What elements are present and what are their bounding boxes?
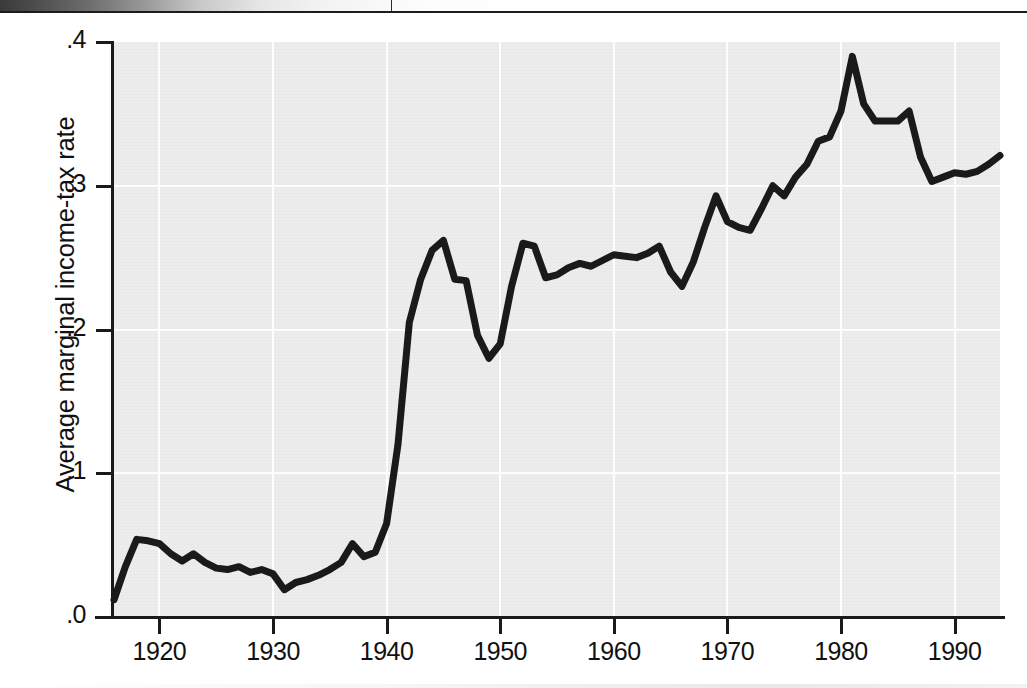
x-axis-tick-label: 1980 bbox=[796, 637, 886, 666]
horizontal-gridline bbox=[114, 472, 1000, 474]
y-axis-title: Average marginal income-tax rate bbox=[51, 25, 80, 585]
plot-panel bbox=[114, 42, 1000, 617]
x-axis-tick bbox=[954, 619, 957, 634]
horizontal-gridline bbox=[114, 185, 1000, 187]
x-axis-tick-label: 1940 bbox=[342, 637, 432, 666]
horizontal-gridline bbox=[114, 329, 1000, 331]
y-axis-tick bbox=[96, 185, 112, 188]
chart-figure: the rate of growth of real gross domesti… bbox=[0, 0, 1027, 688]
x-axis-tick bbox=[499, 619, 502, 634]
x-axis-tick-label: 1920 bbox=[114, 637, 204, 666]
y-axis-tick bbox=[96, 472, 112, 475]
x-axis-tick-label: 1950 bbox=[455, 637, 545, 666]
y-axis-tick-label: .0 bbox=[44, 600, 86, 629]
y-axis-tick bbox=[96, 616, 112, 619]
x-axis-tick bbox=[613, 619, 616, 634]
y-axis-tick bbox=[96, 41, 112, 44]
x-axis-tick-label: 1930 bbox=[228, 637, 318, 666]
x-axis-tick-label: 1990 bbox=[910, 637, 1000, 666]
x-axis-tick bbox=[272, 619, 275, 634]
x-axis-tick bbox=[726, 619, 729, 634]
scan-footer-shadow bbox=[0, 684, 1027, 688]
x-axis-tick bbox=[386, 619, 389, 634]
x-axis-line bbox=[95, 616, 1005, 619]
x-axis-tick-label: 1970 bbox=[682, 637, 772, 666]
y-axis-tick bbox=[96, 329, 112, 332]
x-axis-tick-label: 1960 bbox=[569, 637, 659, 666]
x-axis-tick bbox=[840, 619, 843, 634]
x-axis-tick bbox=[158, 619, 161, 634]
